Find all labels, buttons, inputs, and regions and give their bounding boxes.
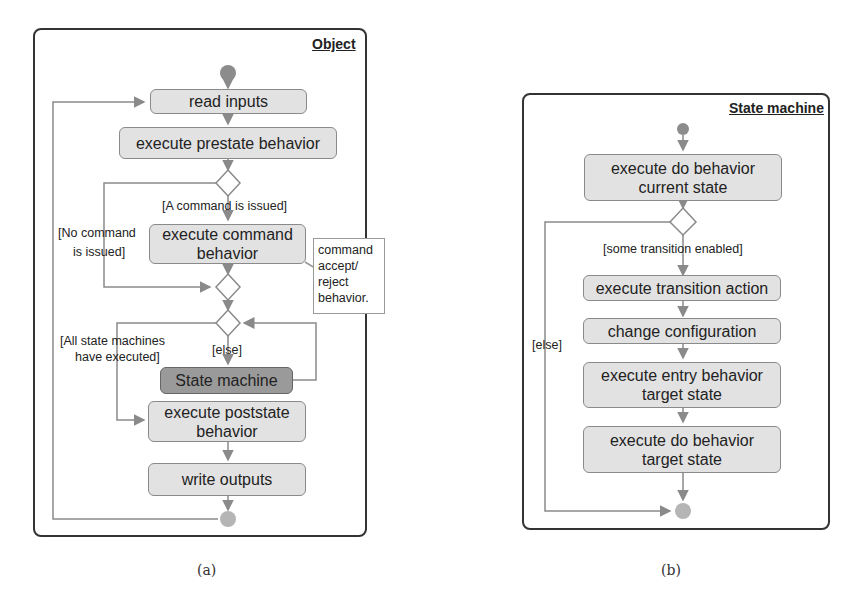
action-write-outputs: write outputs <box>148 463 306 496</box>
guard-no-command-line2: is issued] <box>73 245 125 260</box>
guard-command-issued: [A command is issued] <box>162 199 287 214</box>
action-do-behavior-target: execute do behavior target state <box>583 426 781 473</box>
flow-edges <box>0 0 857 615</box>
final-node-b <box>675 503 691 519</box>
action-transition-action: execute transition action <box>583 275 781 301</box>
action-prestate-behavior: execute prestate behavior <box>119 127 337 159</box>
action-poststate-behavior: execute poststate behavior <box>148 401 306 442</box>
guard-all-executed-line2: have executed] <box>75 350 160 365</box>
merge-command <box>216 274 240 300</box>
final-node-a <box>220 511 236 527</box>
decision-transition <box>670 208 696 235</box>
action-state-machine: State machine <box>160 367 293 394</box>
action-change-configuration: change configuration <box>583 318 781 344</box>
caption-b: (b) <box>661 562 681 578</box>
action-entry-behavior-target: execute entry behavior target state <box>583 362 781 408</box>
caption-a: (a) <box>197 562 216 578</box>
note-command-accept-reject: command accept/ reject behavior. <box>313 238 385 314</box>
initial-node-b <box>677 123 689 135</box>
guard-else-a: [else] <box>212 343 242 358</box>
guard-some-transition-enabled: [some transition enabled] <box>603 242 743 257</box>
action-read-inputs: read inputs <box>150 89 307 114</box>
guard-no-command-line1: [No command <box>58 226 136 241</box>
action-command-behavior: execute command behavior <box>149 224 306 264</box>
guard-all-executed-line1: [All state machines <box>60 334 165 349</box>
action-do-behavior-current: execute do behavior current state <box>584 154 782 201</box>
initial-node-a <box>220 65 236 81</box>
decision-state-machines <box>216 310 240 336</box>
guard-else-b: [else] <box>532 338 562 353</box>
decision-command <box>216 170 240 196</box>
